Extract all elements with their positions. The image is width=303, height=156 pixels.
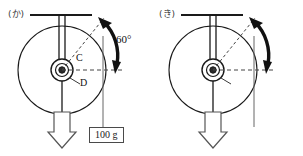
weight-box-left: 100 g	[89, 127, 124, 143]
figure-canvas: (か)	[0, 0, 303, 156]
diagram-panel-left: (か)	[0, 0, 152, 156]
arc-arrowhead-lower-icon	[263, 60, 272, 74]
point-label-c-left: C	[76, 52, 83, 63]
downward-force-arrow-icon	[199, 112, 227, 148]
leader-line-d	[70, 78, 80, 84]
rotation-arc-icon	[255, 22, 269, 64]
wheel-diagram-left	[0, 0, 152, 156]
leader-line-d	[221, 78, 231, 84]
wheel-diagram-right	[151, 0, 303, 156]
point-label-d-left: D	[80, 77, 87, 88]
downward-force-arrow-icon	[48, 112, 76, 148]
angle-label-left: 60°	[116, 33, 131, 45]
diagram-panel-right: (き) C D 60° 100 g	[151, 0, 303, 156]
arc-arrowhead-lower-icon	[112, 60, 121, 74]
